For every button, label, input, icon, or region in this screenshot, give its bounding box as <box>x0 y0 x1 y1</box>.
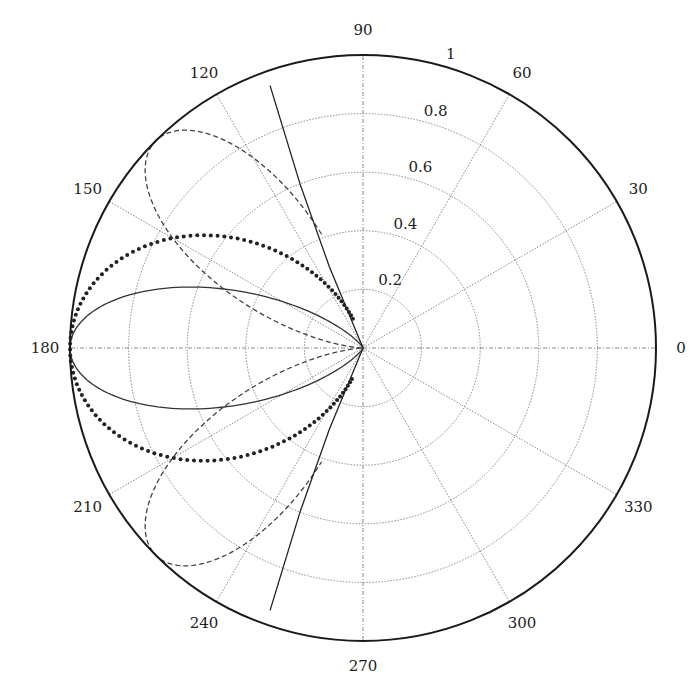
grid-spoke <box>109 202 363 349</box>
grid-spoke <box>109 348 363 495</box>
angle-label: 240 <box>190 614 219 632</box>
grid-spoke <box>363 348 510 602</box>
polar-chart: 03060901201501802102402703003300.20.40.6… <box>0 0 698 693</box>
angle-label: 300 <box>508 614 537 632</box>
angle-label: 30 <box>629 180 648 198</box>
grid-spoke <box>217 94 364 348</box>
radius-label: 0.6 <box>409 158 433 176</box>
radius-label: 0.4 <box>393 215 417 233</box>
solid-radial-line <box>270 348 363 610</box>
grid-spoke <box>217 348 364 602</box>
angle-label: 90 <box>353 21 372 39</box>
radius-label: 0.8 <box>424 102 448 120</box>
angle-label: 330 <box>624 498 653 516</box>
radius-label: 0.2 <box>378 271 402 289</box>
radius-label: 1 <box>446 45 456 63</box>
solid-radial-line <box>270 86 363 348</box>
grid-spoke <box>363 94 510 348</box>
grid-spoke <box>363 348 617 495</box>
angle-label: 180 <box>31 339 60 357</box>
angle-label: 120 <box>190 64 219 82</box>
angle-label: 270 <box>349 657 378 675</box>
angle-label: 0 <box>676 339 686 357</box>
angle-label: 210 <box>73 498 102 516</box>
angle-label: 150 <box>73 180 102 198</box>
angle-label: 60 <box>512 64 531 82</box>
